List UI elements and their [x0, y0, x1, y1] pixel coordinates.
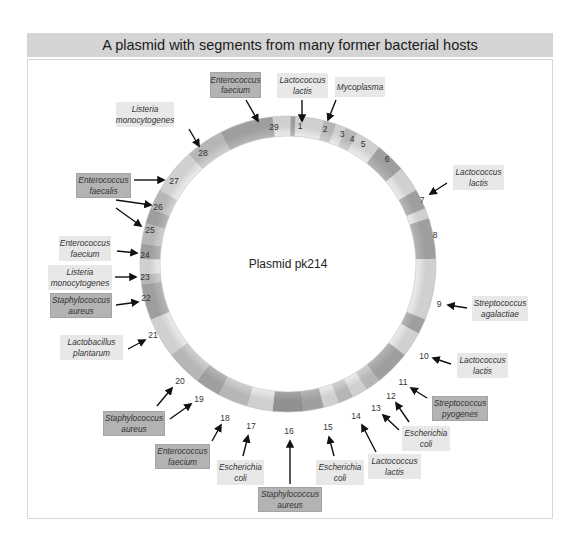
host-label: Lactococcuslactis — [453, 165, 504, 190]
host-label: Escherichiacoli — [402, 426, 450, 451]
host-label-text: Lactococcuslactis — [371, 456, 417, 477]
segment-number: 15 — [323, 422, 332, 432]
pointer-arrow-icon — [128, 340, 145, 349]
host-label: Mycoplasma — [335, 77, 385, 97]
host-label: Staphylococcusaureus — [103, 411, 165, 436]
pointer-arrow-icon — [246, 100, 258, 121]
pointer-arrow-icon — [212, 425, 221, 441]
host-label: Lactococcuslactis — [368, 454, 421, 479]
host-label: Escherichiacoli — [316, 460, 364, 485]
host-label: Enterococcusfaecium — [155, 444, 210, 469]
host-label-text: Enterococcusfaecalis — [78, 175, 128, 196]
segment-number: 26 — [153, 202, 162, 212]
segment-number: 13 — [371, 403, 380, 413]
host-label: Listeriamonocytogenes — [116, 102, 174, 127]
host-label-text: Staphylococcusaureus — [52, 295, 110, 316]
plasmid-name: Plasmid pk214 — [249, 257, 328, 271]
segment-number: 29 — [269, 122, 278, 132]
host-label: Enterococcusfaecalis — [76, 173, 131, 198]
host-label-text: Enterococcusfaecium — [157, 446, 207, 467]
segment-number: 1 — [298, 121, 303, 131]
host-label: Lactococcuslactis — [277, 73, 328, 98]
segment-number: 22 — [141, 293, 150, 303]
host-label-text: Streptococcusagalactiae — [474, 298, 527, 319]
host-label: Lactobacillusplantarum — [60, 335, 123, 360]
segment-number: 12 — [386, 391, 395, 401]
host-label: Streptococcuspyogenes — [432, 396, 488, 421]
segment-number: 21 — [148, 330, 157, 340]
host-label: Enterococcusfaecium — [210, 72, 261, 98]
pointer-arrow-icon — [362, 425, 376, 452]
pointer-arrow-icon — [116, 208, 141, 226]
host-label-text: Staphylococcusaureus — [105, 413, 163, 434]
host-label-text: Lactococcuslactis — [455, 167, 501, 188]
pointer-arrow-icon — [116, 200, 151, 205]
segment-number: 10 — [419, 351, 428, 361]
host-label-text: Enterococcusfaecium — [210, 75, 260, 96]
segment-number: 25 — [145, 225, 154, 235]
segment-number: 8 — [433, 230, 438, 240]
pointer-arrow-icon — [383, 415, 399, 430]
segment-number: 14 — [351, 411, 360, 421]
host-label-text: Lactococcuslactis — [459, 355, 505, 376]
pointer-arrow-icon — [116, 302, 138, 305]
segment-number: 9 — [437, 299, 442, 309]
host-label-text: Staphylococcusaureus — [261, 489, 319, 510]
host-label: Escherichiacoli — [217, 460, 264, 485]
segment-number: 7 — [420, 195, 425, 205]
segment-number: 6 — [385, 154, 390, 164]
segment-number: 17 — [246, 421, 255, 431]
host-label-text: Escherichiacoli — [319, 462, 362, 483]
pointer-arrow-icon — [329, 437, 334, 456]
segment-number: 18 — [220, 413, 229, 423]
segment-number: 23 — [140, 272, 149, 282]
host-label: Streptococcusagalactiae — [472, 296, 528, 321]
pointer-arrow-icon — [117, 251, 137, 253]
segment-number: 5 — [361, 139, 366, 149]
host-label-text: Escherichiacoli — [219, 462, 262, 483]
pointer-arrow-icon — [189, 129, 199, 146]
host-label-text: Mycoplasma — [337, 82, 384, 93]
segment-number: 24 — [140, 250, 149, 260]
host-label-text: Listeriamonocytogenes — [51, 267, 110, 288]
host-label: Listeriamonocytogenes — [48, 265, 112, 290]
host-label: Enterococcusfaecium — [59, 236, 111, 261]
host-label-text: Listeriamonocytogenes — [116, 104, 175, 125]
pointer-arrow-icon — [396, 403, 409, 422]
pointer-arrow-icon — [433, 358, 451, 364]
host-label-text: Escherichiacoli — [405, 428, 448, 449]
pointer-arrow-icon — [411, 388, 427, 398]
segment-number: 2 — [323, 124, 328, 134]
host-label: Staphylococcusaureus — [258, 487, 322, 512]
pointer-arrow-icon — [170, 404, 191, 419]
pointer-arrow-icon — [430, 183, 447, 194]
segment-number: 3 — [340, 129, 345, 139]
host-label-text: Streptococcuspyogenes — [434, 398, 487, 419]
segment-number: 4 — [350, 134, 355, 144]
segment-number: 20 — [175, 376, 184, 386]
pointer-arrow-icon — [243, 436, 248, 456]
pointer-arrow-icon — [157, 388, 172, 406]
segment-number: 11 — [399, 377, 408, 387]
segment-number: 19 — [194, 394, 203, 404]
host-label: Lactococcuslactis — [457, 353, 508, 378]
host-label: Staphylococcusaureus — [50, 293, 112, 318]
host-label-text: Enterococcusfaecium — [60, 238, 110, 259]
host-label-text: Lactobacillusplantarum — [68, 337, 116, 358]
pointer-arrow-icon — [448, 305, 467, 308]
pointer-arrow-icon — [328, 100, 336, 120]
segment-number: 27 — [169, 176, 178, 186]
host-label-text: Lactococcuslactis — [279, 75, 325, 96]
segment-number: 28 — [198, 148, 207, 158]
segment-number: 16 — [284, 426, 293, 436]
